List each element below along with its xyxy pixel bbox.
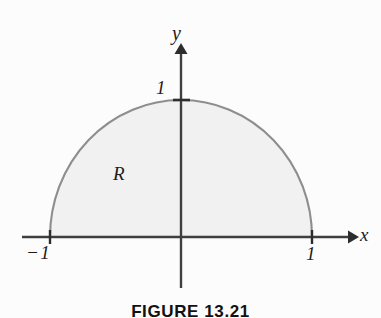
y-tick-label-one: 1	[156, 78, 166, 97]
region-label-R: R	[113, 164, 125, 183]
semicircle-region-plot	[0, 0, 381, 318]
figure-container: y x 1 1 −1 R FIGURE 13.21	[0, 0, 381, 318]
x-axis-label: x	[360, 225, 368, 244]
y-axis-label: y	[172, 23, 181, 43]
y-axis-arrowhead	[175, 43, 188, 54]
figure-caption: FIGURE 13.21	[0, 302, 381, 318]
x-axis-arrowhead	[348, 231, 359, 244]
x-tick-label-positive-one: 1	[306, 244, 316, 263]
x-tick-label-negative-one: −1	[26, 243, 51, 262]
